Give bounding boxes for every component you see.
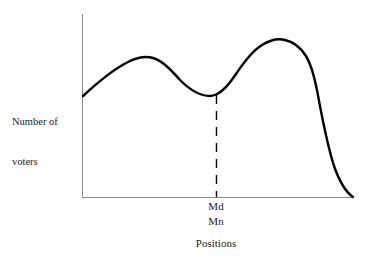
mean-marker-label: Mn [186,214,246,228]
y-axis-label: Number of voters [12,88,78,196]
median-marker-label: Md [186,199,246,213]
distribution-figure: Number of voters Md Mn Positions [0,0,367,262]
y-axis-label-line2: voters [12,155,78,168]
voter-distribution-curve [83,39,353,197]
y-axis-label-line1: Number of [12,115,78,128]
x-axis-label: Positions [166,236,266,250]
